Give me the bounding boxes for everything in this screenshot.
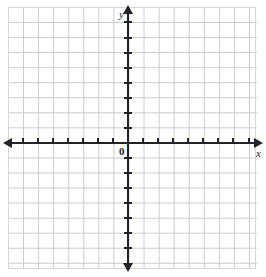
y-axis-tick [124,202,132,204]
y-axis-tick [124,21,132,23]
y-axis-tick [124,82,132,84]
x-axis-tick [67,138,69,144]
y-axis-tick [124,157,132,159]
x-axis-left-arrow-icon [3,138,12,148]
x-axis-tick [112,138,114,144]
y-axis-tick [124,67,132,69]
y-axis-tick [124,247,132,249]
y-axis-tick [124,172,132,174]
x-axis-tick [248,138,250,144]
origin-label: 0 [119,146,125,157]
y-axis-tick [124,127,132,129]
coordinate-plane-figure: y x 0 [0,0,266,277]
x-axis-line [9,142,258,144]
x-axis-tick [172,138,174,144]
y-axis-tick [124,97,132,99]
x-axis-label: x [256,148,261,159]
x-axis-tick [22,138,24,144]
x-axis-tick [187,138,189,144]
x-axis-tick [157,138,159,144]
x-axis-tick [97,138,99,144]
y-axis-tick [124,52,132,54]
y-axis-line [127,12,129,265]
y-axis-label: y [119,9,124,20]
x-axis-tick [37,138,39,144]
x-axis-tick [217,138,219,144]
y-axis-up-arrow-icon [123,5,133,14]
grid-background [8,8,257,269]
y-axis-tick [124,187,132,189]
y-axis-tick [124,232,132,234]
x-axis-tick [82,138,84,144]
y-axis-tick [124,217,132,219]
x-axis-tick [202,138,204,144]
y-axis-down-arrow-icon [123,263,133,272]
x-axis-tick [142,138,144,144]
x-axis-tick [52,138,54,144]
x-axis-tick [232,138,234,144]
y-axis-tick [124,37,132,39]
y-axis-tick [124,112,132,114]
